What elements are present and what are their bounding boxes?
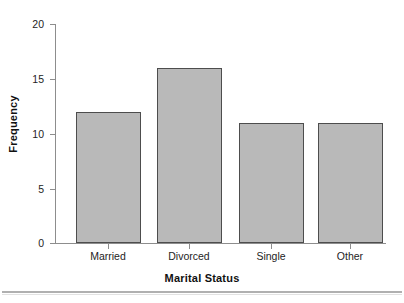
bar-single xyxy=(239,123,304,243)
y-tick-mark-5 xyxy=(50,189,55,190)
x-tick-mark-married xyxy=(108,244,109,249)
bottom-divider-shadow xyxy=(2,294,402,295)
y-tick-mark-15 xyxy=(50,79,55,80)
x-tick-mark-single xyxy=(271,244,272,249)
y-tick-label-5-wrap: 5 xyxy=(14,184,44,195)
x-axis-line xyxy=(55,243,386,244)
x-tick-mark-divorced xyxy=(189,244,190,249)
y-tick-label-20: 20 xyxy=(16,19,44,30)
x-tick-mark-other xyxy=(350,244,351,249)
y-tick-label-10: 10 xyxy=(16,129,44,140)
y-tick-label-0: 0 xyxy=(16,238,44,249)
y-tick-mark-20 xyxy=(50,24,55,25)
y-tick-label-15: 15 xyxy=(16,74,44,85)
y-tick-label-15-wrap: 15 xyxy=(14,74,44,85)
y-axis-line xyxy=(55,24,56,244)
bar-divorced xyxy=(157,68,222,243)
x-tick-label-divorced: Divorced xyxy=(149,250,229,263)
x-tick-label-single: Single xyxy=(231,250,311,263)
x-axis-title: Marital Status xyxy=(0,272,404,284)
x-tick-label-other: Other xyxy=(310,250,390,263)
y-tick-mark-10 xyxy=(50,134,55,135)
bar-other xyxy=(318,123,383,243)
bottom-divider xyxy=(2,291,402,293)
bar-chart-figure: Frequency 20 15 10 5 0 Married Divorced … xyxy=(0,0,404,303)
y-tick-label-20-wrap: 20 xyxy=(14,19,44,30)
x-tick-label-married: Married xyxy=(68,250,148,263)
y-tick-label-5: 5 xyxy=(16,184,44,195)
bar-married xyxy=(76,112,141,243)
y-tick-label-0-wrap: 0 xyxy=(14,238,44,249)
y-tick-label-10-wrap: 10 xyxy=(14,129,44,140)
